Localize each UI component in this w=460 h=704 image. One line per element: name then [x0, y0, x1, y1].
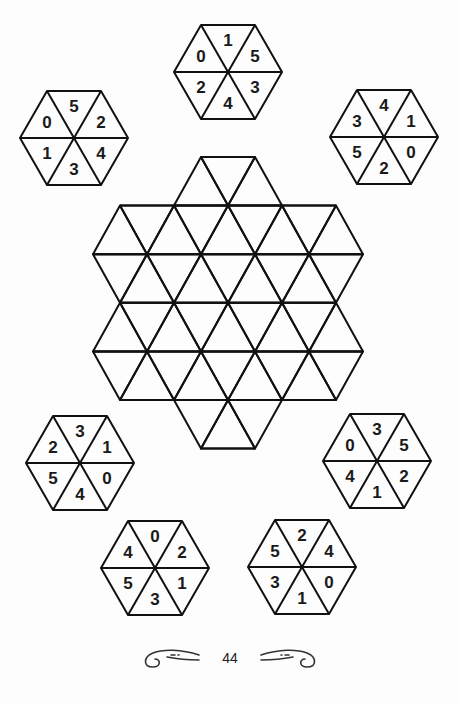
- sector-number: 0: [324, 573, 333, 592]
- grid-triangle: [228, 157, 282, 206]
- sector-number: 1: [223, 31, 232, 50]
- sector-number: 5: [399, 436, 408, 455]
- hexagon-bottom-right: 524310: [248, 520, 356, 614]
- grid-triangle: [174, 351, 228, 400]
- hexagon-top: 015243: [174, 25, 282, 119]
- grid-triangle: [309, 254, 363, 303]
- grid-triangle: [309, 303, 363, 352]
- grid-triangle: [255, 206, 309, 255]
- grid-triangle: [120, 351, 174, 400]
- grid-triangle: [201, 206, 255, 255]
- sector-number: 4: [223, 94, 233, 113]
- grid-triangle: [228, 303, 282, 352]
- sector-number: 1: [102, 438, 111, 457]
- grid-triangle: [309, 206, 363, 255]
- sector-number: 0: [406, 143, 415, 162]
- sector-number: 3: [75, 422, 84, 441]
- sector-number: 5: [48, 469, 57, 488]
- grid-triangle: [147, 303, 201, 352]
- sector-number: 4: [345, 467, 355, 486]
- sector-number: 5: [250, 47, 259, 66]
- sector-number: 1: [177, 574, 186, 593]
- grid-triangle: [147, 254, 201, 303]
- grid-triangle: [93, 303, 147, 352]
- sector-number: 1: [406, 112, 415, 131]
- grid-triangle: [147, 206, 201, 255]
- sector-number: 0: [196, 47, 205, 66]
- grid-triangle: [201, 351, 255, 400]
- sector-number: 4: [96, 144, 106, 163]
- sector-number: 3: [270, 573, 279, 592]
- sector-number: 2: [96, 113, 105, 132]
- grid-triangle: [93, 254, 147, 303]
- sector-number: 2: [379, 159, 388, 178]
- sector-number: 5: [69, 97, 78, 116]
- grid-triangle: [228, 254, 282, 303]
- sector-number: 1: [297, 589, 306, 608]
- grid-triangle: [309, 351, 363, 400]
- grid-triangle: [228, 206, 282, 255]
- sector-number: 2: [177, 543, 186, 562]
- sector-number: 3: [352, 112, 361, 131]
- grid-triangle: [174, 157, 228, 206]
- sector-number: 0: [42, 113, 51, 132]
- central-triangle-grid: [93, 157, 363, 449]
- grid-triangle: [201, 303, 255, 352]
- grid-triangle: [120, 303, 174, 352]
- hexagon-bottom-left: 402531: [101, 521, 209, 615]
- hexagon-lower-left: 231540: [26, 416, 134, 510]
- sector-number: 0: [102, 469, 111, 488]
- grid-triangle: [282, 303, 336, 352]
- sector-number: 4: [123, 543, 133, 562]
- grid-triangle: [93, 351, 147, 400]
- right-flourish-icon: [259, 645, 319, 671]
- hexagon-upper-right: 341520: [330, 90, 438, 184]
- grid-triangle: [201, 254, 255, 303]
- grid-triangle: [174, 206, 228, 255]
- left-flourish-icon: [141, 645, 201, 671]
- grid-triangle: [174, 400, 228, 449]
- sector-number: 0: [150, 527, 159, 546]
- sector-number: 3: [69, 160, 78, 179]
- grid-triangle: [255, 351, 309, 400]
- sector-number: 5: [270, 542, 279, 561]
- grid-triangle: [120, 206, 174, 255]
- sector-number: 3: [250, 78, 259, 97]
- grid-triangle: [201, 157, 255, 206]
- grid-triangle: [282, 351, 336, 400]
- grid-triangle: [93, 206, 147, 255]
- sector-number: 4: [324, 542, 334, 561]
- sector-number: 2: [196, 78, 205, 97]
- sector-number: 1: [42, 144, 51, 163]
- grid-triangle: [147, 351, 201, 400]
- number-hexagons: 0152430521343415202315400354124025315243…: [20, 25, 438, 615]
- puzzle-canvas: 0152430521343415202315400354124025315243…: [0, 0, 460, 704]
- grid-triangle: [282, 206, 336, 255]
- grid-triangle: [282, 254, 336, 303]
- grid-triangle: [255, 303, 309, 352]
- sector-number: 2: [399, 467, 408, 486]
- sector-number: 4: [75, 485, 85, 504]
- sector-number: 2: [297, 526, 306, 545]
- grid-triangle: [174, 254, 228, 303]
- sector-number: 4: [379, 96, 389, 115]
- grid-triangle: [228, 400, 282, 449]
- grid-triangle: [120, 254, 174, 303]
- sector-number: 1: [372, 483, 381, 502]
- sector-number: 0: [345, 436, 354, 455]
- page-number: 44: [213, 650, 247, 666]
- sector-number: 3: [150, 590, 159, 609]
- page-footer: 44: [0, 640, 460, 676]
- sector-number: 2: [48, 438, 57, 457]
- grid-triangle: [228, 351, 282, 400]
- sector-number: 5: [352, 143, 361, 162]
- sector-number: 3: [372, 420, 381, 439]
- grid-triangle: [201, 400, 255, 449]
- grid-triangle: [255, 254, 309, 303]
- grid-triangle: [174, 303, 228, 352]
- sector-number: 5: [123, 574, 132, 593]
- hexagon-upper-left: 052134: [20, 91, 128, 185]
- hexagon-lower-right: 035412: [323, 414, 431, 508]
